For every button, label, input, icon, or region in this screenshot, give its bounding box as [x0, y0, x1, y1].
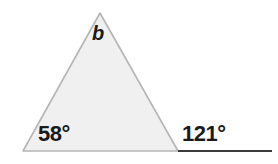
interior-angle-label-58: 58°: [38, 123, 70, 145]
apex-angle-label-b: b: [92, 23, 104, 43]
geometry-figure: b 58° 121°: [0, 0, 278, 164]
exterior-angle-label-121: 121°: [182, 123, 226, 145]
